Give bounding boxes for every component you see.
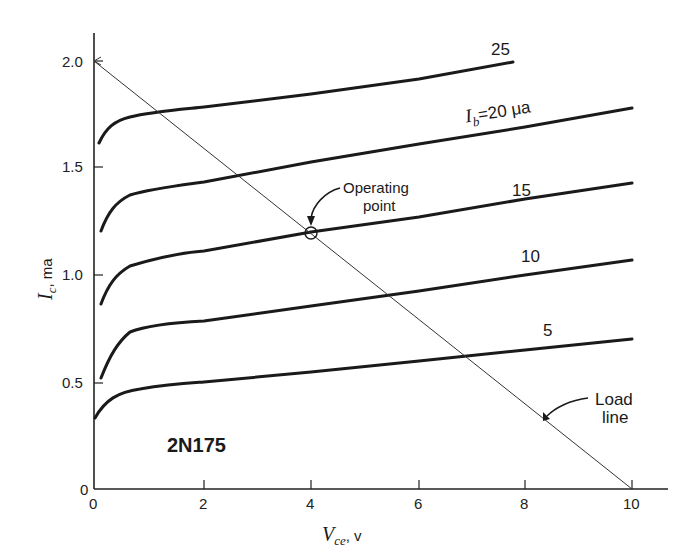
operating-point-label: Operating — [343, 179, 409, 196]
x-ticks — [204, 480, 632, 489]
y-tick-label: 0.5 — [62, 374, 83, 391]
curve-ib-5 — [95, 339, 632, 418]
y-tick-label: 1.0 — [62, 266, 83, 283]
x-axis-label: Vce, v — [322, 523, 362, 548]
curve-label-25: 25 — [491, 40, 510, 59]
x-tick-label: 10 — [623, 495, 640, 512]
load-line — [94, 61, 632, 489]
operating-point-arrow — [311, 188, 340, 218]
curve-label-5: 5 — [543, 321, 552, 340]
curve-label-20: Ib=20 μa — [463, 95, 533, 130]
curve-ib-25 — [99, 62, 513, 143]
y-ticks — [94, 61, 103, 383]
curve-label-15: 15 — [512, 181, 531, 200]
load-line-arrow — [547, 398, 588, 416]
svg-text:Ic, ma: Ic, ma — [34, 258, 59, 301]
load-line-label: Load — [595, 390, 633, 409]
y-axis-label: Ic, ma — [34, 258, 59, 301]
chart-canvas: 0 0.5 1.0 1.5 2.0 0 2 4 6 8 10 Vce, v Ic… — [0, 0, 699, 558]
svg-text:Ib=20 μa: Ib=20 μa — [463, 95, 533, 130]
operating-point-label: point — [363, 197, 396, 214]
operating-point-arrowhead — [307, 216, 315, 226]
x-tick-label: 2 — [199, 495, 207, 512]
x-tick-label: 8 — [520, 495, 528, 512]
x-tick-label: 0 — [89, 495, 97, 512]
y-tick-label: 1.5 — [62, 158, 83, 175]
y-tick-label: 0 — [80, 481, 88, 498]
svg-text:Vce, v: Vce, v — [322, 523, 362, 548]
x-tick-label: 6 — [414, 495, 422, 512]
y-tick-label: 2.0 — [62, 53, 83, 70]
device-label: 2N175 — [167, 434, 226, 456]
load-line-label: line — [602, 408, 628, 427]
curve-label-10: 10 — [521, 247, 540, 266]
x-tick-label: 4 — [306, 495, 314, 512]
